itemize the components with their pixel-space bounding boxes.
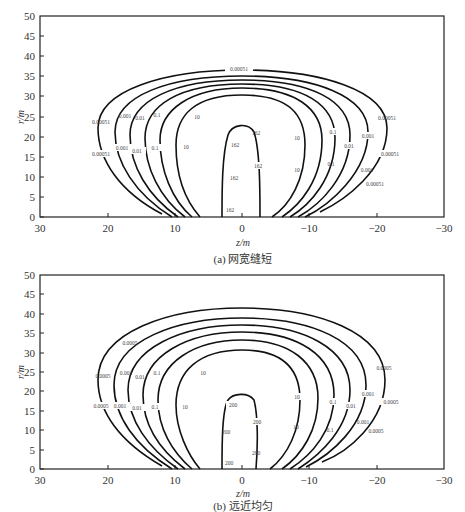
svg-text:200: 200 xyxy=(253,419,262,425)
svg-text:0.1: 0.1 xyxy=(330,129,337,135)
svg-text:10: 10 xyxy=(24,424,36,436)
svg-text:200: 200 xyxy=(252,450,261,456)
svg-text:10: 10 xyxy=(24,171,36,183)
svg-text:10: 10 xyxy=(293,424,299,430)
svg-text:10: 10 xyxy=(200,370,206,376)
plot-b-caption: (b) 远近均匀 xyxy=(213,500,273,512)
plot-a-y-ticks: 0 5 10 15 20 25 30 35 40 45 50 xyxy=(24,10,44,223)
svg-text:−10: −10 xyxy=(300,474,318,486)
plot-b: 0 5 10 15 20 25 30 35 40 45 50 30 20 10 … xyxy=(15,269,453,512)
svg-text:0.001: 0.001 xyxy=(357,419,370,425)
svg-text:−10: −10 xyxy=(300,222,318,234)
svg-text:0.01: 0.01 xyxy=(132,405,142,411)
svg-text:0.001: 0.001 xyxy=(119,113,132,119)
svg-text:0.1: 0.1 xyxy=(154,370,161,376)
svg-text:0.0005: 0.0005 xyxy=(368,428,383,434)
svg-text:10: 10 xyxy=(182,404,188,410)
svg-text:200: 200 xyxy=(229,402,238,408)
svg-text:0.0005: 0.0005 xyxy=(122,340,137,346)
svg-text:0.00051: 0.00051 xyxy=(92,151,110,157)
svg-text:30: 30 xyxy=(24,347,36,359)
svg-text:10: 10 xyxy=(170,474,182,486)
svg-text:0.00051: 0.00051 xyxy=(230,66,248,72)
plot-a-x-ticks: 30 20 10 0 −10 −20 −30 xyxy=(35,213,454,234)
svg-text:200: 200 xyxy=(225,460,234,466)
svg-text:40: 40 xyxy=(24,308,36,320)
svg-text:162: 162 xyxy=(230,175,239,181)
svg-text:0.1: 0.1 xyxy=(152,404,159,410)
svg-text:0.1: 0.1 xyxy=(330,399,337,405)
svg-text:10: 10 xyxy=(294,394,300,400)
svg-text:35: 35 xyxy=(24,327,36,339)
svg-text:−20: −20 xyxy=(368,474,386,486)
plot-a-caption: (a) 网宽缝短 xyxy=(214,252,273,266)
svg-text:0.0005: 0.0005 xyxy=(95,373,110,379)
plot-b-ylabel: r/m xyxy=(15,365,26,379)
svg-text:30: 30 xyxy=(24,90,36,102)
svg-text:10: 10 xyxy=(294,135,300,141)
svg-text:0.0005: 0.0005 xyxy=(383,399,398,405)
svg-text:0.00051: 0.00051 xyxy=(378,115,396,121)
svg-text:0.01: 0.01 xyxy=(344,143,354,149)
svg-text:0.01: 0.01 xyxy=(132,148,142,154)
svg-text:10: 10 xyxy=(294,167,300,173)
svg-text:0: 0 xyxy=(239,474,245,486)
svg-text:200: 200 xyxy=(222,429,231,435)
svg-text:35: 35 xyxy=(24,70,36,82)
svg-text:5: 5 xyxy=(30,444,36,456)
plot-a-contours xyxy=(88,66,403,217)
svg-text:162: 162 xyxy=(254,163,263,169)
plot-a: 0 5 10 15 20 25 30 35 40 45 50 30 20 10 … xyxy=(15,10,453,266)
svg-text:10: 10 xyxy=(194,114,200,120)
svg-text:40: 40 xyxy=(24,50,36,62)
svg-text:0.00051: 0.00051 xyxy=(92,119,110,125)
svg-text:20: 20 xyxy=(24,385,36,397)
plot-b-xlabel: z/m xyxy=(235,488,250,499)
svg-text:0.001: 0.001 xyxy=(120,370,133,376)
svg-text:−20: −20 xyxy=(368,222,386,234)
svg-text:0.0005: 0.0005 xyxy=(93,403,108,409)
svg-text:0.001: 0.001 xyxy=(114,403,127,409)
plot-b-y-ticks: 0 5 10 15 20 25 30 35 40 45 50 xyxy=(24,269,44,475)
plot-a-xlabel: z/m xyxy=(235,237,250,248)
svg-text:0.1: 0.1 xyxy=(152,145,159,151)
svg-text:15: 15 xyxy=(24,405,36,417)
svg-text:50: 50 xyxy=(24,269,36,281)
svg-text:20: 20 xyxy=(103,222,115,234)
svg-text:0.001: 0.001 xyxy=(361,167,374,173)
svg-text:20: 20 xyxy=(103,474,115,486)
plot-b-x-ticks: 30 20 10 0 −10 −20 −30 xyxy=(35,465,454,486)
svg-text:−30: −30 xyxy=(435,474,453,486)
svg-text:0.001: 0.001 xyxy=(362,391,375,397)
svg-text:162: 162 xyxy=(226,207,235,213)
svg-text:10: 10 xyxy=(170,222,182,234)
svg-text:0.001: 0.001 xyxy=(116,145,129,151)
svg-text:0.001: 0.001 xyxy=(362,133,375,139)
svg-text:30: 30 xyxy=(35,474,47,486)
svg-text:45: 45 xyxy=(24,288,36,300)
svg-text:0.01: 0.01 xyxy=(346,403,356,409)
svg-text:15: 15 xyxy=(24,151,36,163)
svg-text:30: 30 xyxy=(35,222,47,234)
figure: 0 5 10 15 20 25 30 35 40 45 50 30 20 10 … xyxy=(0,0,465,512)
svg-text:162: 162 xyxy=(252,130,261,136)
plot-b-frame xyxy=(40,275,444,469)
svg-text:45: 45 xyxy=(24,30,36,42)
svg-text:0.1: 0.1 xyxy=(328,161,335,167)
svg-text:162: 162 xyxy=(231,142,240,148)
svg-text:0.01: 0.01 xyxy=(135,115,145,121)
svg-text:0.00051: 0.00051 xyxy=(366,181,384,187)
svg-text:0.1: 0.1 xyxy=(154,112,161,118)
svg-text:10: 10 xyxy=(183,144,189,150)
svg-text:0.0005: 0.0005 xyxy=(376,365,391,371)
svg-text:0.1: 0.1 xyxy=(327,427,334,433)
svg-text:0.00051: 0.00051 xyxy=(381,151,399,157)
svg-text:5: 5 xyxy=(30,191,36,203)
svg-text:0: 0 xyxy=(239,222,245,234)
plot-b-contours xyxy=(88,308,404,469)
svg-text:50: 50 xyxy=(24,10,36,22)
svg-text:20: 20 xyxy=(24,131,36,143)
svg-text:−30: −30 xyxy=(435,222,453,234)
plot-a-ylabel: r/m xyxy=(15,110,26,124)
svg-text:0.01: 0.01 xyxy=(135,374,145,380)
